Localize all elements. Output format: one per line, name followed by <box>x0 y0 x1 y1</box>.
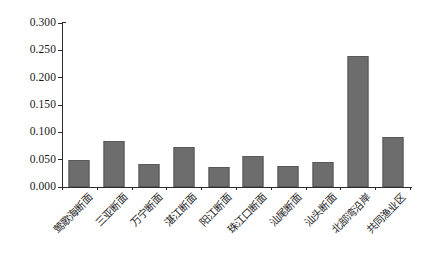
y-axis-tick-label: 0.100 <box>0 126 56 138</box>
bar <box>347 56 368 187</box>
bar <box>104 141 125 187</box>
x-axis-tick <box>62 187 63 190</box>
bar-slot <box>375 23 410 187</box>
x-axis-tick <box>236 187 237 190</box>
bar-series <box>62 23 410 187</box>
bar <box>208 167 229 187</box>
y-axis-tick-label: 0.250 <box>0 44 56 56</box>
bar <box>69 160 90 187</box>
x-axis-tick <box>132 187 133 190</box>
bar <box>312 162 333 187</box>
y-axis-tick-label: 0.300 <box>0 17 56 29</box>
bar-slot <box>271 23 306 187</box>
bar <box>278 166 299 187</box>
y-axis-tick-label: 0.050 <box>0 154 56 166</box>
bar-slot <box>97 23 132 187</box>
x-axis-tick <box>410 187 411 190</box>
y-axis-tick-label: 0.150 <box>0 99 56 111</box>
y-axis-tick-label: 0.000 <box>0 181 56 193</box>
y-axis-tick-label: 0.200 <box>0 72 56 84</box>
x-axis-line <box>62 187 412 188</box>
x-axis-tick <box>306 187 307 190</box>
bar-slot <box>306 23 341 187</box>
bar-slot <box>236 23 271 187</box>
x-axis-tick <box>375 187 376 190</box>
bar-slot <box>62 23 97 187</box>
x-axis-category-label: 莺歌海断面 <box>16 192 94 259</box>
bar <box>382 137 403 187</box>
bar-chart: 0.3000.2500.2000.1500.1000.0500.000 莺歌海断… <box>0 0 440 259</box>
bar-slot <box>340 23 375 187</box>
x-axis-tick <box>340 187 341 190</box>
x-axis-tick <box>97 187 98 190</box>
bar <box>243 156 264 187</box>
x-axis-labels: 莺歌海断面三亚断面万宁断面湛江断面阳江断面珠江口断面汕尾断面汕头断面北部湾沿岸共… <box>0 192 440 259</box>
x-axis-tick <box>201 187 202 190</box>
bar-slot <box>132 23 167 187</box>
bar-slot <box>201 23 236 187</box>
bar-slot <box>166 23 201 187</box>
bar <box>138 164 159 187</box>
bar <box>173 147 194 187</box>
x-axis-tick <box>166 187 167 190</box>
x-axis-tick <box>271 187 272 190</box>
